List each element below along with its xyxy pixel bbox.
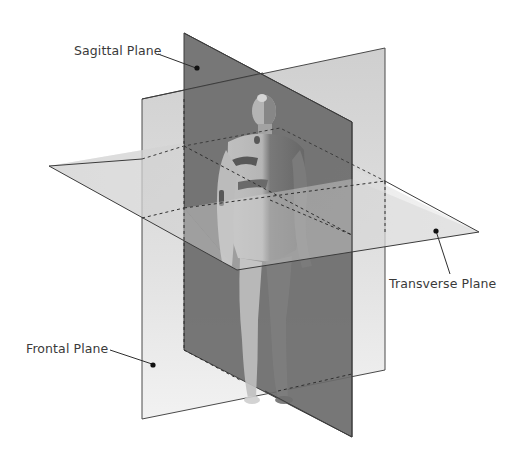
frontal-marker-dot [150,362,155,367]
sagittal-marker-dot [194,65,199,70]
sagittal-plane-label: Sagittal Plane [74,43,162,58]
anatomical-planes-diagram: Sagittal Plane Transverse Plane Frontal … [0,0,507,464]
transverse-plane-label: Transverse Plane [389,276,496,291]
diagram-canvas [0,0,507,464]
transverse-marker-dot [433,228,438,233]
frontal-plane-label: Frontal Plane [26,341,108,356]
